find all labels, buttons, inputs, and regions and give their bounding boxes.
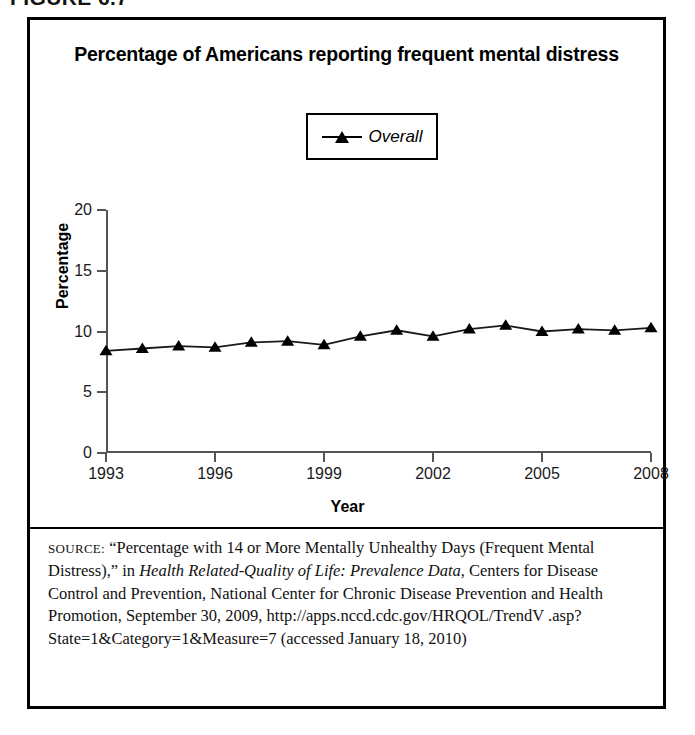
x-tick-2002 [432, 453, 434, 462]
x-tick-label-1999: 1999 [306, 465, 342, 483]
y-tick-20 [97, 209, 106, 211]
series-line-overall [106, 325, 651, 351]
y-tick-label-0: 0 [83, 444, 92, 462]
source-note: SOURCE: “Percentage with 14 or More Ment… [48, 537, 648, 650]
source-text-5: September 30, 2009, http://apps.nccd.cdc… [126, 606, 544, 625]
legend-label-overall: Overall [369, 127, 423, 147]
y-axis-title: Percentage [54, 285, 72, 309]
series-overall [106, 210, 651, 453]
y-tick-10 [97, 331, 106, 333]
x-tick-1999 [323, 453, 325, 462]
y-tick-label-5: 5 [83, 383, 92, 401]
data-point-1998 [281, 335, 294, 346]
source-italic-1: Health Related-Quality of Life: [139, 561, 346, 580]
source-text-1: “Percentage with 14 or More Mentally Unh… [105, 538, 475, 557]
x-tick-label-2002: 2002 [415, 465, 451, 483]
y-tick-5 [97, 391, 106, 393]
data-point-2004 [499, 319, 512, 330]
source-divider [30, 527, 663, 529]
x-tick-2008 [650, 453, 652, 462]
figure-label: FIGURE 6.7 [10, 0, 128, 10]
legend-marker-overall [322, 130, 362, 144]
source-prefix: SOURCE: [48, 541, 105, 556]
source-italic-2: Prevalence Data [350, 561, 461, 580]
chart-title: Percentage of Americans reporting freque… [30, 43, 663, 66]
data-point-2006 [572, 323, 585, 334]
x-tick-2005 [541, 453, 543, 462]
x-tick-1996 [214, 453, 216, 462]
x-tick-label-2005: 2005 [524, 465, 560, 483]
y-tick-15 [97, 270, 106, 272]
data-point-1995 [172, 340, 185, 351]
x-tick-1993 [105, 453, 107, 462]
x-tick-label-1996: 1996 [197, 465, 233, 483]
y-tick-label-10: 10 [74, 323, 92, 341]
x-axis-title: Year [0, 498, 695, 516]
y-tick-label-15: 15 [74, 262, 92, 280]
legend-entry-overall: Overall [308, 115, 436, 158]
y-tick-label-20: 20 [74, 201, 92, 219]
x-tick-label-1993: 1993 [88, 465, 124, 483]
plot-area: 05101520 199319961999200220052008 [106, 210, 651, 453]
data-point-2001 [390, 324, 403, 335]
triangle-up-icon [335, 131, 349, 143]
chart-legend: Overall [306, 113, 438, 160]
x-tick-label-2008: 2008 [633, 465, 669, 483]
series-markers-overall [100, 319, 658, 355]
